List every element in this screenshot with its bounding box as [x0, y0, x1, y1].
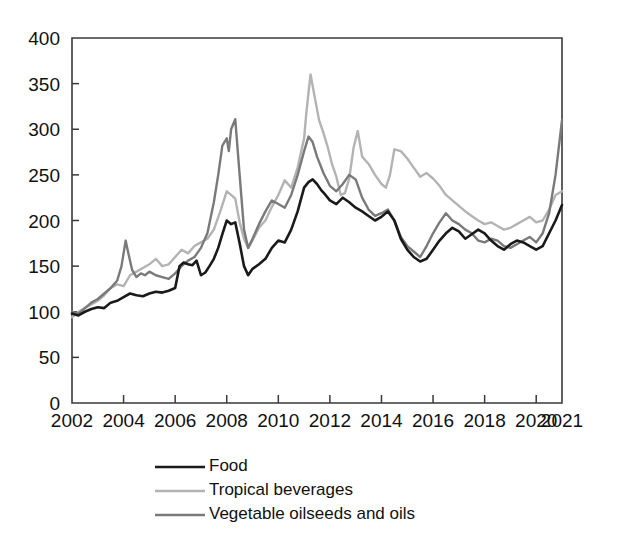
y-tick-label: 250 — [28, 165, 60, 186]
y-tick-label: 50 — [39, 347, 60, 368]
data-series-group — [72, 75, 562, 318]
chart-container: 050100150200250300350400 200220042006200… — [0, 0, 619, 537]
x-axis-ticks — [124, 395, 537, 403]
x-tick-label: 2012 — [309, 410, 351, 431]
series-line-food — [72, 179, 562, 315]
x-tick-label: 2021 — [541, 410, 583, 431]
x-tick-label: 2004 — [102, 410, 145, 431]
x-axis-labels: 2002200420062008201020122014201620182020… — [51, 410, 583, 431]
x-tick-label: 2008 — [206, 410, 248, 431]
chart-legend: FoodTropical beveragesVegetable oilseeds… — [155, 456, 415, 523]
x-tick-label: 2002 — [51, 410, 93, 431]
y-tick-label: 300 — [28, 119, 60, 140]
plot-frame — [72, 38, 562, 403]
legend-label-2: Tropical beverages — [209, 480, 353, 499]
series-line-tropical-beverages — [72, 75, 562, 318]
y-tick-label: 150 — [28, 256, 60, 277]
x-tick-label: 2010 — [257, 410, 299, 431]
x-tick-label: 2016 — [412, 410, 454, 431]
y-tick-label: 200 — [28, 211, 60, 232]
legend-label-1: Food — [209, 456, 248, 475]
y-tick-label: 400 — [28, 28, 60, 49]
y-axis-labels: 050100150200250300350400 — [28, 28, 60, 414]
legend-label-3: Vegetable oilseeds and oils — [209, 504, 415, 523]
y-tick-label: 350 — [28, 74, 60, 95]
series-line-vegetable-oilseeds-and-oils — [72, 119, 562, 313]
price-index-line-chart: 050100150200250300350400 200220042006200… — [0, 0, 619, 537]
y-tick-label: 100 — [28, 302, 60, 323]
x-tick-label: 2014 — [360, 410, 403, 431]
x-tick-label: 2018 — [463, 410, 505, 431]
x-tick-label: 2006 — [154, 410, 196, 431]
